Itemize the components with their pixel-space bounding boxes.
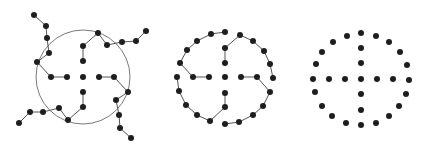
node	[183, 102, 189, 108]
node	[403, 91, 409, 97]
node	[343, 120, 349, 126]
node	[386, 113, 392, 119]
node	[236, 119, 242, 125]
node	[111, 74, 117, 80]
node	[250, 112, 256, 118]
edge	[114, 77, 128, 92]
node	[80, 104, 86, 110]
diagram-canvas	[0, 0, 425, 149]
node	[326, 76, 332, 82]
node	[133, 38, 139, 44]
node	[237, 32, 243, 38]
node	[95, 30, 101, 36]
node	[190, 74, 196, 80]
tree-diagram-svg	[0, 0, 425, 149]
node	[44, 35, 50, 41]
node	[184, 47, 190, 53]
node	[80, 74, 86, 80]
node	[386, 39, 392, 45]
node	[358, 122, 364, 128]
node	[104, 42, 110, 48]
node	[176, 88, 182, 94]
node	[31, 12, 37, 18]
node	[206, 74, 212, 80]
node	[80, 58, 86, 64]
node	[119, 39, 125, 45]
node	[222, 29, 228, 35]
node	[396, 103, 402, 109]
node	[80, 43, 86, 49]
node	[254, 74, 260, 80]
node	[125, 89, 131, 95]
node	[358, 91, 364, 97]
node	[64, 74, 70, 80]
panel-points-only	[310, 30, 412, 128]
node	[406, 77, 412, 83]
node	[373, 120, 379, 126]
node	[222, 90, 228, 96]
panel-tree-folded	[174, 29, 276, 127]
node	[46, 50, 52, 56]
node	[270, 75, 276, 81]
node	[128, 135, 134, 141]
node	[174, 74, 180, 80]
node	[43, 23, 49, 29]
node	[397, 49, 403, 55]
node	[65, 117, 71, 123]
node	[222, 60, 228, 66]
node	[319, 49, 325, 55]
node	[222, 121, 228, 127]
node	[310, 76, 316, 82]
node	[260, 103, 266, 109]
node	[96, 74, 102, 80]
node	[358, 107, 364, 113]
node	[222, 45, 228, 51]
node	[27, 109, 33, 115]
node	[358, 60, 364, 66]
node	[34, 59, 40, 65]
node	[194, 112, 200, 118]
node	[222, 104, 228, 110]
node	[222, 74, 228, 80]
node	[373, 33, 379, 39]
node	[342, 76, 348, 82]
node	[177, 60, 183, 66]
node	[116, 112, 122, 118]
node	[319, 103, 325, 109]
node	[374, 76, 380, 82]
node	[80, 89, 86, 95]
node	[113, 97, 119, 103]
edge	[37, 62, 51, 77]
node	[143, 28, 149, 34]
node	[250, 38, 256, 44]
node	[358, 76, 364, 82]
node	[267, 61, 273, 67]
node	[261, 48, 267, 54]
node	[390, 76, 396, 82]
node	[312, 89, 318, 95]
node	[56, 105, 62, 111]
node	[329, 113, 335, 119]
node	[207, 118, 213, 124]
node	[344, 33, 350, 39]
node	[40, 109, 46, 115]
node	[330, 39, 336, 45]
node	[313, 61, 319, 67]
node	[48, 74, 54, 80]
node	[404, 62, 410, 68]
node	[358, 45, 364, 51]
panel-tree-with-circle	[16, 12, 149, 141]
node	[117, 125, 123, 131]
edge	[210, 107, 225, 121]
node	[358, 30, 364, 36]
node	[16, 120, 22, 126]
node	[238, 74, 244, 80]
node	[267, 89, 273, 95]
node	[194, 38, 200, 44]
node	[208, 31, 214, 37]
